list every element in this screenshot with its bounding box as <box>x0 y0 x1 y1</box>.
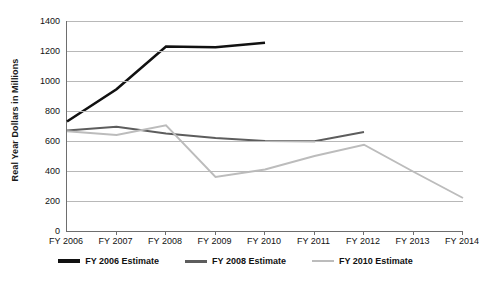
y-axis-tick-label: 1400 <box>40 16 60 26</box>
gridline <box>67 171 463 172</box>
legend-item-label: FY 2008 Estimate <box>212 256 286 266</box>
x-axis-tick-mark <box>165 231 166 235</box>
x-axis-tick-label: FY 2011 <box>297 236 330 246</box>
gridline <box>67 201 463 202</box>
legend-item[interactable]: FY 2006 Estimate <box>58 256 159 266</box>
x-axis-tick-mark <box>462 231 463 235</box>
y-axis-tick-label: 600 <box>45 136 60 146</box>
legend-swatch-icon <box>58 259 80 263</box>
y-axis-title-text: Real Year Dollars in Millions <box>10 59 20 182</box>
x-axis-tick-label: FY 2010 <box>247 236 281 246</box>
x-axis-tick-mark <box>215 231 216 235</box>
x-axis-tick-mark <box>116 231 117 235</box>
x-axis-tick-label: FY 2012 <box>346 236 380 246</box>
legend-swatch-icon <box>185 260 207 263</box>
gridline <box>67 141 463 142</box>
y-axis-tick-label: 0 <box>55 226 60 236</box>
y-axis-tick-label: 1000 <box>40 76 60 86</box>
x-axis-tick-label: FY 2014 <box>445 236 479 246</box>
series-lines <box>67 21 463 231</box>
legend-item-label: FY 2006 Estimate <box>85 256 159 266</box>
gridline <box>67 111 463 112</box>
x-axis-tick-mark <box>264 231 265 235</box>
x-axis-tick-mark <box>314 231 315 235</box>
x-axis-tick-label: FY 2006 <box>49 236 83 246</box>
chart-legend: FY 2006 EstimateFY 2008 EstimateFY 2010 … <box>0 256 471 266</box>
y-axis-tick-label: 200 <box>45 196 60 206</box>
y-axis-tick-label: 1200 <box>40 46 60 56</box>
legend-item[interactable]: FY 2010 Estimate <box>312 256 413 266</box>
y-axis-tick-label: 400 <box>45 166 60 176</box>
plot-area <box>66 21 463 232</box>
legend-item[interactable]: FY 2008 Estimate <box>185 256 286 266</box>
x-axis-tick-label: FY 2013 <box>396 236 430 246</box>
x-axis-tick-label: FY 2009 <box>198 236 232 246</box>
series-line <box>67 43 265 122</box>
y-axis-title: Real Year Dollars in Millions <box>2 0 28 240</box>
gridline <box>67 81 463 82</box>
y-axis-tick-label: 800 <box>45 106 60 116</box>
legend-swatch-icon <box>312 260 334 262</box>
x-axis-tick-labels: FY 2006FY 2007FY 2008FY 2009FY 2010FY 20… <box>0 236 471 252</box>
gridline <box>67 21 463 22</box>
series-line <box>67 125 463 198</box>
x-axis-tick-label: FY 2007 <box>99 236 133 246</box>
legend-item-label: FY 2010 Estimate <box>339 256 413 266</box>
x-axis-tick-mark <box>413 231 414 235</box>
x-axis-tick-mark <box>363 231 364 235</box>
gridline <box>67 51 463 52</box>
x-axis-tick-label: FY 2008 <box>148 236 182 246</box>
